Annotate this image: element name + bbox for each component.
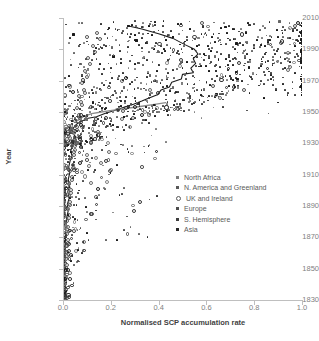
data-point [134, 63, 136, 65]
data-point [73, 204, 75, 206]
square-marker-icon [176, 228, 179, 231]
data-point [67, 173, 69, 175]
data-point [226, 32, 228, 34]
data-point [123, 187, 125, 189]
data-point [208, 57, 210, 59]
legend-item[interactable]: S. Hemisphere [176, 214, 296, 225]
data-point [78, 198, 80, 200]
data-point [166, 44, 168, 46]
data-point [280, 62, 282, 64]
data-point [282, 83, 284, 85]
data-point [224, 26, 226, 28]
data-point [67, 144, 69, 146]
data-point [177, 91, 179, 93]
data-point [261, 37, 263, 39]
data-point [191, 61, 193, 63]
data-point [204, 55, 206, 57]
legend-item[interactable]: Asia [176, 225, 296, 236]
data-point [73, 52, 75, 54]
data-point [210, 42, 212, 44]
data-point [120, 105, 122, 107]
data-point [73, 148, 77, 152]
data-point [202, 25, 204, 27]
data-point [161, 52, 163, 54]
data-point [98, 125, 100, 127]
data-point [113, 54, 115, 56]
data-point [198, 44, 200, 46]
data-point [158, 64, 160, 66]
data-point [74, 175, 76, 177]
data-point [284, 58, 286, 60]
data-point [79, 117, 81, 119]
data-point [301, 86, 302, 88]
data-point [148, 97, 150, 99]
data-point [200, 21, 204, 25]
data-point [66, 112, 68, 114]
data-point [200, 65, 202, 67]
data-point [122, 144, 124, 146]
data-point [157, 42, 161, 46]
data-point [137, 62, 139, 64]
data-point [122, 72, 124, 74]
data-point [151, 47, 153, 49]
data-point [76, 130, 78, 132]
data-point [289, 22, 291, 24]
data-point [67, 203, 71, 207]
data-point [122, 126, 124, 128]
data-point [110, 120, 112, 122]
data-point [120, 144, 122, 146]
data-point [81, 252, 83, 254]
data-point [242, 52, 244, 54]
data-point [148, 88, 152, 92]
legend-item[interactable]: UK and Ireland [176, 193, 296, 204]
data-point [232, 46, 234, 48]
data-point [88, 127, 90, 129]
legend-item[interactable]: North Africa [176, 172, 296, 183]
data-point [93, 86, 95, 88]
data-point [138, 233, 140, 235]
data-point [91, 59, 93, 61]
data-point [94, 169, 96, 171]
data-point [219, 66, 221, 68]
data-point [121, 32, 123, 34]
data-point [249, 60, 251, 62]
data-point [146, 59, 148, 61]
x-axis-title: Normalised SCP accumulation rate [63, 318, 303, 327]
data-point [214, 55, 216, 57]
data-point [71, 140, 73, 142]
data-point [210, 50, 212, 52]
data-point [101, 82, 103, 84]
legend-item[interactable]: N. America and Greenland [176, 183, 296, 194]
data-point [68, 105, 70, 107]
legend-label: Europe [184, 204, 207, 213]
data-point [108, 85, 110, 87]
data-point [85, 153, 89, 157]
data-point [207, 45, 209, 47]
data-point [189, 28, 191, 30]
data-point [270, 78, 272, 80]
data-point [187, 97, 189, 99]
data-point [109, 123, 111, 125]
data-point [112, 129, 114, 131]
data-point [233, 38, 235, 40]
data-point [65, 24, 67, 26]
data-point [153, 31, 155, 33]
data-point [101, 47, 103, 49]
data-point [84, 218, 88, 222]
data-point [223, 22, 225, 24]
data-point [205, 65, 207, 67]
data-point [201, 103, 203, 105]
data-point [142, 119, 144, 121]
data-point [111, 77, 113, 79]
data-point [222, 106, 224, 108]
data-point [211, 95, 213, 97]
data-point [82, 180, 84, 182]
data-point [65, 158, 67, 160]
data-point [264, 53, 266, 55]
data-point [91, 157, 93, 159]
data-point [208, 29, 210, 31]
data-point [120, 92, 122, 94]
legend-item[interactable]: Europe [176, 204, 296, 215]
data-point [194, 38, 196, 40]
data-point [104, 108, 106, 110]
